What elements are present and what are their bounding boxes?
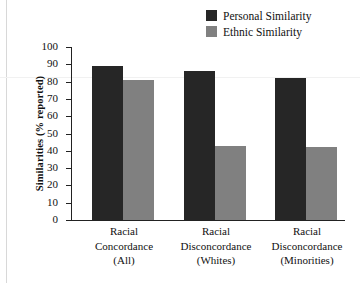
y-tick-label-20: 20 [30, 178, 58, 191]
page-edge-artifact [6, 0, 7, 283]
y-tick-label-60: 60 [30, 109, 58, 122]
x-axis-categories: RacialConcordance(All)RacialDisconcordan… [72, 224, 346, 280]
bar-ethnic-similarity [123, 80, 154, 220]
y-tick-label-80: 80 [30, 75, 58, 88]
y-tick-0: 0 [66, 220, 71, 221]
y-tick-label-40: 40 [30, 144, 58, 157]
x-category-line: Racial [252, 224, 360, 239]
y-tick-label-100: 100 [30, 40, 58, 53]
bar-ethnic-similarity [215, 146, 246, 220]
plot-area: 0102030405060708090100 [71, 47, 345, 220]
bar-personal-similarity [184, 71, 215, 220]
y-tick-label-90: 90 [30, 57, 58, 70]
y-tick-50: 50 [66, 134, 71, 135]
y-tick-10: 10 [66, 203, 71, 204]
legend-swatch-personal-similarity [206, 10, 217, 21]
bar-chart-figure: Personal Similarity Ethnic Similarity Si… [0, 0, 360, 283]
legend-item-ethnic-similarity: Ethnic Similarity [206, 24, 356, 39]
chart-legend: Personal Similarity Ethnic Similarity [206, 8, 356, 40]
y-tick-70: 70 [66, 99, 71, 100]
x-category-label: RacialDisconcordance(Minorities) [252, 224, 360, 268]
legend-swatch-ethnic-similarity [206, 26, 217, 37]
legend-item-personal-similarity: Personal Similarity [206, 8, 356, 23]
y-tick-60: 60 [66, 116, 71, 117]
x-axis-line [71, 220, 345, 221]
bars-container [72, 47, 345, 220]
y-tick-20: 20 [66, 185, 71, 186]
x-category-line: (Minorities) [252, 253, 360, 268]
y-tick-40: 40 [66, 151, 71, 152]
y-tick-label-0: 0 [30, 213, 58, 226]
legend-label-personal-similarity: Personal Similarity [223, 10, 311, 22]
x-category-line: Disconcordance [252, 239, 360, 254]
y-tick-label-70: 70 [30, 92, 58, 105]
bar-group [92, 47, 154, 220]
y-tick-100: 100 [66, 47, 71, 48]
y-tick-label-30: 30 [30, 161, 58, 174]
legend-label-ethnic-similarity: Ethnic Similarity [223, 26, 302, 38]
y-tick-label-50: 50 [30, 127, 58, 140]
bar-group [275, 47, 337, 220]
bar-ethnic-similarity [306, 147, 337, 220]
bar-personal-similarity [92, 66, 123, 220]
y-tick-90: 90 [66, 64, 71, 65]
y-tick-label-10: 10 [30, 196, 58, 209]
y-tick-30: 30 [66, 168, 71, 169]
bar-personal-similarity [275, 78, 306, 220]
bar-group [184, 47, 246, 220]
y-tick-80: 80 [66, 82, 71, 83]
